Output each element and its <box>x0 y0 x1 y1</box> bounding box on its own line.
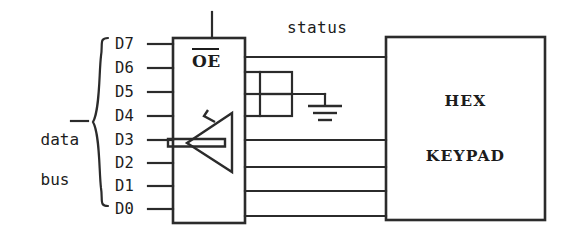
pin-label-d3: D3 <box>115 133 134 149</box>
pin-label-d7: D7 <box>115 37 134 53</box>
circuit-diagram-canvas: data bus D7 D6 D5 D4 D3 D2 D1 D0 OE stat… <box>0 0 564 240</box>
data-bus-pin-wires <box>148 44 173 209</box>
output-enable-overbar <box>192 48 219 50</box>
data-bus-label-line1: data <box>41 130 80 149</box>
data-bus-brace <box>93 38 108 206</box>
pin-label-d6: D6 <box>115 61 134 77</box>
pin-label-d1: D1 <box>115 179 134 195</box>
keypad-label-hex: HEX <box>386 93 545 109</box>
data-bus-label-line2: bus <box>41 170 70 189</box>
ground-connection <box>292 94 342 120</box>
circuit-schematic-svg <box>0 0 564 240</box>
pin-label-d5: D5 <box>115 85 134 101</box>
pin-label-d4: D4 <box>115 109 134 125</box>
keypad-data-wires <box>245 140 386 216</box>
pin-label-d2: D2 <box>115 156 134 172</box>
hex-keypad-box <box>386 37 545 220</box>
tristate-buffer-symbol <box>168 110 232 172</box>
data-bus-label: data bus <box>2 110 68 210</box>
status-label: status <box>287 20 347 36</box>
output-enable-label: OE <box>192 53 221 70</box>
pin-label-d0: D0 <box>115 202 134 218</box>
keypad-label-keypad: KEYPAD <box>386 148 545 164</box>
pullup-link-rectangles <box>245 72 292 116</box>
